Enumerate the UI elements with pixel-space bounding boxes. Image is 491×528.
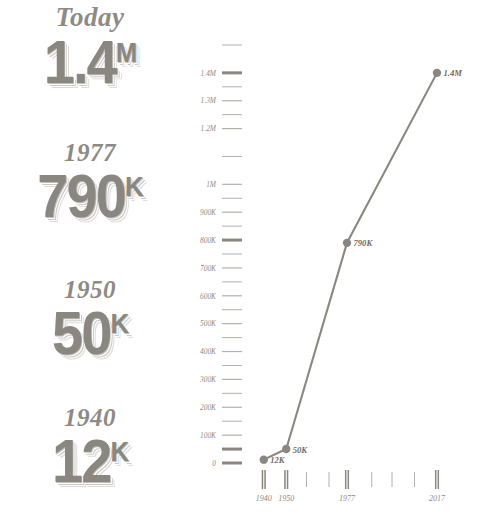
stat-block-today: Today 1.4M <box>0 4 180 90</box>
stat-value-suffix: M <box>116 36 136 68</box>
infographic-root: Today 1.4M 1977 790K 1950 50K 1940 12K 1… <box>0 0 491 528</box>
y-axis-tick-label: 300K <box>199 375 217 384</box>
stat-value: 50K <box>9 306 171 361</box>
data-point[interactable] <box>343 239 351 247</box>
y-axis-tick-label: 0 <box>212 459 216 468</box>
stat-value-suffix: K <box>125 170 143 202</box>
stat-value-number: 50 <box>52 298 110 367</box>
y-axis: 1.4M1.3M1.2M1M900K800K700K600K500K400K30… <box>199 45 242 468</box>
chart-canvas: 1.4M1.3M1.2M1M900K800K700K600K500K400K30… <box>180 0 491 528</box>
y-axis-tick-label: 500K <box>200 319 217 328</box>
stat-value: 1.4M <box>9 35 171 90</box>
y-axis-tick-label: 600K <box>200 292 217 301</box>
x-axis: 1940195019772017 <box>256 470 446 503</box>
data-point[interactable] <box>260 455 268 463</box>
y-axis-tick-label: 800K <box>200 236 217 245</box>
y-axis-tick-label: 700K <box>200 264 217 273</box>
line-chart: 1.4M1.3M1.2M1M900K800K700K600K500K400K30… <box>180 0 491 528</box>
y-axis-tick-label: 900K <box>200 208 217 217</box>
x-axis-tick-label: 1977 <box>339 494 356 503</box>
y-axis-tick-label: 1M <box>206 180 217 189</box>
data-point[interactable] <box>433 69 441 77</box>
stat-value-suffix: K <box>110 435 128 467</box>
data-point-label: 12K <box>270 455 286 465</box>
stat-value-number: 1.4 <box>44 27 116 96</box>
stat-value: 12K <box>9 434 171 489</box>
data-series: 12K50K790K1.4M <box>260 68 463 465</box>
y-axis-tick-label: 1.3M <box>201 96 217 105</box>
series-line <box>264 73 437 460</box>
stat-value-number: 790 <box>37 161 125 230</box>
data-point-label: 1.4M <box>444 68 463 78</box>
y-axis-tick-label: 1.2M <box>201 124 217 133</box>
y-axis-tick-label: 400K <box>200 347 217 356</box>
stat-block-1940: 1940 12K <box>0 405 180 489</box>
y-axis-tick-label: 100K <box>200 431 217 440</box>
stat-column: Today 1.4M 1977 790K 1950 50K 1940 12K <box>0 0 180 528</box>
data-point[interactable] <box>282 445 290 453</box>
stat-value: 790K <box>9 169 171 224</box>
x-axis-tick-label: 2017 <box>429 494 446 503</box>
y-axis-tick-label: 1.4M <box>201 69 217 78</box>
data-point-label: 790K <box>354 238 374 248</box>
stat-block-1977: 1977 790K <box>0 140 180 224</box>
stat-value-number: 12 <box>52 426 110 495</box>
x-axis-tick-label: 1940 <box>256 494 272 503</box>
x-axis-tick-label: 1950 <box>278 494 294 503</box>
y-axis-tick-label: 200K <box>200 403 217 412</box>
stat-value-suffix: K <box>110 307 128 339</box>
stat-block-1950: 1950 50K <box>0 277 180 361</box>
data-point-label: 50K <box>293 445 309 455</box>
